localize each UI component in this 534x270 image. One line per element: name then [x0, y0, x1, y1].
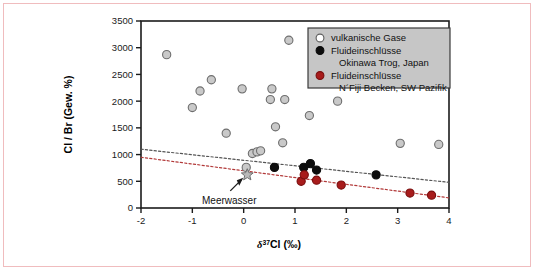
legend-marker-1: [316, 47, 324, 55]
seawater-arrow-head: [237, 178, 244, 186]
data-point: [406, 189, 414, 197]
legend-marker-2: [316, 72, 324, 80]
data-point: [279, 139, 287, 147]
legend-label-1: Fluideinschlüsse: [331, 45, 401, 56]
y-tick-label: 2500: [112, 69, 133, 80]
data-point: [281, 95, 289, 103]
data-point: [268, 85, 276, 93]
data-point: [271, 123, 279, 131]
x-tick-label: -2: [137, 215, 145, 226]
data-point: [427, 191, 435, 199]
trend-lines: [141, 149, 449, 198]
x-tick-label: 4: [446, 215, 451, 226]
x-tick-label: 1: [292, 215, 297, 226]
legend-label-2: Fluideinschlüsse: [331, 70, 401, 81]
data-point: [305, 111, 313, 119]
y-tick-label: 500: [117, 176, 133, 187]
x-tick-label: -1: [188, 215, 196, 226]
y-tick-label: 2000: [112, 96, 133, 107]
x-tick-label: 2: [344, 215, 349, 226]
data-point: [337, 181, 345, 189]
y-tick-label: 3500: [112, 15, 133, 26]
data-point: [196, 87, 204, 95]
legend-marker-0: [316, 34, 324, 42]
seawater-label: Meerwasser: [202, 195, 257, 206]
legend-label-0: vulkanische Gase: [331, 32, 406, 43]
data-point: [435, 140, 443, 148]
x-tick-label: 0: [241, 215, 246, 226]
data-point: [300, 171, 308, 179]
x-tick-label: 3: [395, 215, 400, 226]
series-2: [297, 171, 436, 200]
y-axis-title: Cl / Br (Gew. %): [62, 76, 74, 154]
svg-text:δ37Cl (‰): δ37Cl (‰): [257, 238, 301, 250]
data-point: [334, 97, 342, 105]
y-tick-label: 1500: [112, 122, 133, 133]
data-point: [207, 76, 215, 84]
legend-sublabel-1: Okinawa Trog, Japan: [339, 57, 429, 68]
data-point: [285, 36, 293, 44]
legend: vulkanische GaseFluideinschlüsseOkinawa …: [308, 28, 450, 93]
data-point: [222, 129, 230, 137]
y-tick-label: 1000: [112, 149, 133, 160]
legend-sublabel-2: N´Fiji Becken, SW Pazifik: [339, 82, 447, 93]
data-point: [188, 103, 196, 111]
data-point: [270, 163, 278, 171]
data-point: [312, 166, 320, 174]
x-axis-title: δ37Cl (‰): [257, 238, 301, 250]
data-point: [266, 95, 274, 103]
figure-container: -2-1012340500100015002000250030003500Cl …: [0, 0, 534, 270]
data-point: [312, 176, 320, 184]
data-point: [163, 51, 171, 59]
x-axis: -2-101234: [137, 208, 452, 226]
data-point: [257, 147, 265, 155]
data-point: [396, 139, 404, 147]
y-tick-label: 0: [128, 202, 133, 213]
scatter-plot: -2-1012340500100015002000250030003500Cl …: [0, 0, 534, 270]
y-axis: 0500100015002000250030003500: [112, 15, 141, 213]
data-point: [372, 171, 380, 179]
data-point: [238, 85, 246, 93]
data-point: [306, 160, 314, 168]
annotation-seawater: Meerwasser: [202, 169, 257, 206]
y-tick-label: 3000: [112, 42, 133, 53]
lower-trend: [141, 157, 449, 198]
